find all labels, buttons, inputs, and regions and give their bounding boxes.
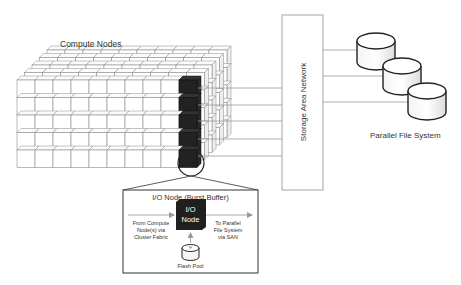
- svg-text:I/O: I/O: [185, 205, 195, 214]
- svg-text:From Compute: From Compute: [133, 220, 170, 226]
- storage-area-network-label: Storage Area Network: [299, 62, 308, 141]
- parallel-file-system-label: Parallel File System: [370, 131, 441, 140]
- burst-buffer-diagram: Compute Nodes Storage Area Network Paral…: [0, 0, 461, 285]
- io-node-cube: [179, 146, 201, 168]
- compute-nodes-label: Compute Nodes: [60, 39, 121, 49]
- from-compute-text: From Compute Node(s) via Cluster Fabric: [133, 220, 170, 240]
- svg-text:To Parallel: To Parallel: [215, 220, 241, 226]
- parallel-file-system-disks: [357, 33, 446, 120]
- flash-pool-disk-icon: [182, 245, 199, 261]
- svg-text:via SAN: via SAN: [218, 234, 238, 240]
- flash-pool-label: Flash Pool: [178, 263, 204, 269]
- disk-icon: [408, 83, 446, 120]
- svg-text:Node: Node: [182, 215, 200, 224]
- svg-text:File System: File System: [214, 227, 243, 233]
- svg-text:Node(s) via: Node(s) via: [137, 227, 166, 233]
- svg-text:Cluster Fabric: Cluster Fabric: [134, 234, 168, 240]
- io-node-block: I/O Node: [176, 199, 206, 230]
- compute-node-grid: [17, 46, 231, 168]
